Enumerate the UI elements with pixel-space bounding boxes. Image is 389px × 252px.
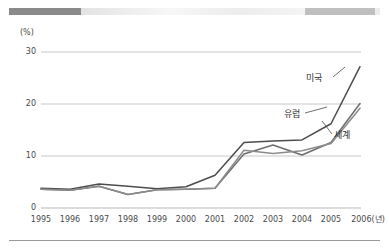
x-tick-2006: 2006(년) [345,216,389,224]
y-tick-10: 10 [14,152,36,160]
x-tick-2001: 2001 [201,216,229,224]
y-tick-20: 20 [14,100,36,108]
footer-divider [9,240,380,241]
x-tick-1997: 1997 [85,216,113,224]
header-bar-mid-segment [305,8,375,15]
y-tick-0: 0 [14,204,36,212]
header-bar-dark-segment [9,8,81,15]
leader-usa [333,67,345,77]
header-bar-tail-segment [375,8,380,15]
x-tick-2000: 2000 [172,216,200,224]
x-tick-1996: 1996 [56,216,84,224]
leader-europe [305,107,327,113]
x-tick-2003: 2003 [259,216,287,224]
x-tick-1998: 1998 [114,216,142,224]
x-tick-2002: 2002 [230,216,258,224]
x-tick-2005: 2005 [317,216,345,224]
x-tick-1999: 1999 [143,216,171,224]
chart-canvas [0,20,389,220]
series-line-미국 [41,67,360,190]
header-bar-light-segment [81,8,305,15]
series-label-world: 세계 [334,131,350,140]
series-label-europe: 유럽 [284,110,300,119]
x-tick-2004: 2004 [288,216,316,224]
y-tick-30: 30 [14,48,36,56]
series-label-usa: 미국 [306,74,322,83]
line-chart [0,20,389,220]
header-gradient-bar [9,8,380,15]
x-tick-1995: 1995 [27,216,55,224]
